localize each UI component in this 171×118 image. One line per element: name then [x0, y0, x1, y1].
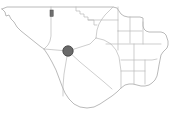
map-canvas — [0, 0, 171, 118]
locator-map — [0, 0, 171, 118]
highlighted-location-dot-marker — [63, 46, 73, 56]
highlighted-location-rect-marker — [50, 10, 53, 16]
